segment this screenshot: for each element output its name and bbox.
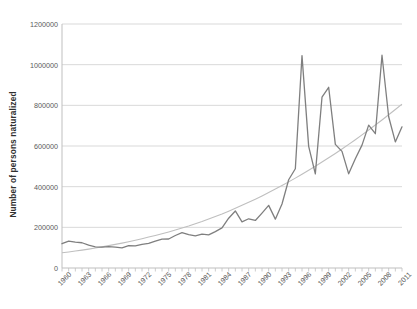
x-tick-label: 1972 [136, 270, 154, 288]
y-axis-tick-labels: 020000040000060000080000010000001200000 [8, 0, 58, 309]
y-tick-label: 400000 [12, 182, 58, 191]
y-tick-label: 600000 [12, 142, 58, 151]
x-tick-label: 2002 [336, 270, 354, 288]
y-tick-label: 1000000 [12, 60, 58, 69]
x-tick-label: 1984 [216, 270, 234, 288]
y-tick-label: 800000 [12, 101, 58, 110]
x-tick-label: 1996 [296, 270, 314, 288]
x-tick-label: 1960 [56, 270, 74, 288]
x-tick-label: 1990 [256, 270, 274, 288]
x-tick-label: 2008 [376, 270, 394, 288]
y-tick-label: 1200000 [12, 20, 58, 29]
trendline-series [62, 104, 402, 253]
naturalized-series-line [62, 55, 402, 248]
x-tick-label: 1999 [316, 270, 334, 288]
x-tick-label: 1963 [76, 270, 94, 288]
gridlines [62, 24, 402, 227]
plot-area [62, 24, 402, 268]
naturalization-line-chart: Number of persons naturalized 0200000400… [0, 0, 417, 309]
plot-svg [62, 24, 402, 268]
x-tick-label: 1978 [176, 270, 194, 288]
x-tick-label: 1981 [196, 270, 214, 288]
x-tick-label: 1975 [156, 270, 174, 288]
x-tick-label: 1969 [116, 270, 134, 288]
x-tick-label: 1966 [96, 270, 114, 288]
x-axis-tick-labels: 1960196319661969197219751978198119841987… [0, 270, 417, 309]
y-tick-label: 200000 [12, 223, 58, 232]
x-tick-label: 2011 [396, 270, 413, 287]
x-tick-label: 1987 [236, 270, 254, 288]
x-tick-label: 2005 [356, 270, 374, 288]
x-tick-label: 1993 [276, 270, 294, 288]
